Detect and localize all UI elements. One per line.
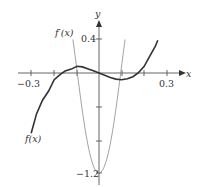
x-axis-arrow-icon [179, 70, 186, 76]
x-tick-label-0.3: 0.3 [159, 78, 174, 89]
y-tick-label-0.4: 0.4 [81, 33, 96, 44]
x-tick-label-neg0.3: −0.3 [17, 78, 40, 89]
plot-area: x y −0.3 0.3 0.4 −1.2 f′(x) f(x) [0, 0, 203, 187]
y-axis-arrow-icon [96, 20, 102, 27]
fprime-label: f′(x) [54, 27, 74, 38]
f-curve [31, 40, 158, 133]
function-chart: x y −0.3 0.3 0.4 −1.2 f′(x) f(x) [0, 0, 203, 187]
x-axis-label: x [186, 68, 192, 79]
f-label: f(x) [24, 133, 42, 144]
y-tick-label-neg1.2: −1.2 [76, 168, 99, 179]
y-axis-label: y [94, 8, 101, 19]
